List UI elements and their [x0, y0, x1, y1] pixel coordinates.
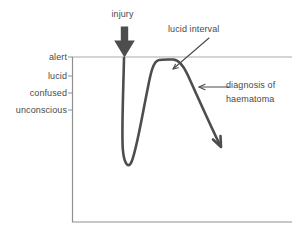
diagnosis-pointer-arrow	[199, 84, 229, 89]
consciousness-time-chart: alert lucid confused unconscious injury …	[0, 0, 300, 231]
injury-down-arrow-icon	[114, 27, 135, 58]
annotation-injury: injury	[95, 8, 150, 20]
y-tick-label-confused: confused	[30, 87, 67, 99]
lucid-interval-pointer-line	[173, 38, 209, 69]
annotation-diagnosis-of-haematoma: diagnosis of haematoma	[226, 79, 294, 106]
y-tick-label-lucid: lucid	[48, 70, 67, 82]
y-tick-label-alert: alert	[49, 51, 67, 63]
y-axis-ticks	[68, 57, 73, 110]
annotation-lucid-interval: lucid interval	[168, 23, 219, 35]
y-tick-label-unconscious: unconscious	[16, 104, 67, 116]
conscious-level-curve	[122, 58, 220, 165]
lucid-interval-pointer-arrow	[173, 38, 209, 69]
